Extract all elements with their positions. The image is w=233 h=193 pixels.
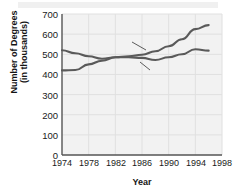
chart-figure: Number of Degrees (in thousands) 700 600…	[0, 0, 233, 193]
plot-area	[0, 0, 233, 193]
